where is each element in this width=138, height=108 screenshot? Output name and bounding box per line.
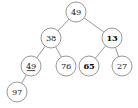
tree-edge [37,46,45,58]
node-label: 49 [26,61,36,71]
tree-node: 13 [102,28,122,48]
tree-node: 38 [41,28,61,48]
tree-node: 49 [21,56,41,76]
node-label: 38 [46,33,56,43]
tree-edge [22,75,27,83]
tree-edge [56,47,62,57]
tree-edge [84,18,104,32]
tree-edge [58,19,69,31]
node-label: 97 [12,87,22,97]
node-label: 49 [71,7,81,17]
tree-edge [115,47,118,56]
node-label: 13 [106,33,118,43]
tree-node: 49 [66,2,86,22]
tree-node: 76 [56,56,76,76]
binary-tree-figure: 4938134976652797 [0,0,138,108]
tree-canvas: 4938134976652797 [0,0,138,108]
tree-node: 65 [79,56,99,76]
node-label: 65 [83,61,95,71]
tree-edge [95,46,105,59]
tree-node: 27 [112,56,132,76]
node-layer: 4938134976652797 [7,2,132,102]
node-label: 76 [61,61,71,71]
tree-node: 97 [7,82,27,102]
node-label: 27 [117,61,127,71]
